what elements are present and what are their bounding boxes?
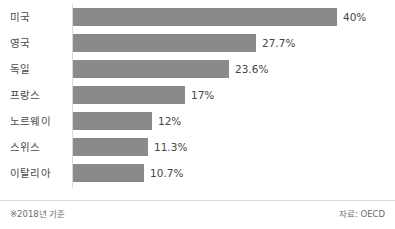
bar-track: 17% bbox=[73, 86, 395, 104]
bar-value-label: 10.7% bbox=[150, 164, 183, 182]
bar-fill bbox=[73, 138, 148, 156]
bar-fill bbox=[73, 164, 144, 182]
bar-value-label: 12% bbox=[158, 112, 181, 130]
footer: ※2018년 기준 자료: OECD bbox=[0, 203, 395, 229]
bar-fill bbox=[73, 34, 256, 52]
category-label: 독일 bbox=[10, 56, 68, 82]
footer-divider bbox=[0, 200, 395, 201]
bar-track: 40% bbox=[73, 8, 395, 26]
bar-value-label: 27.7% bbox=[262, 34, 295, 52]
bar-value-label: 40% bbox=[343, 8, 366, 26]
bar-track: 10.7% bbox=[73, 164, 395, 182]
category-label: 영국 bbox=[10, 30, 68, 56]
bar-fill bbox=[73, 86, 185, 104]
bar-fill bbox=[73, 8, 337, 26]
bar-value-label: 17% bbox=[191, 86, 214, 104]
bar-track: 27.7% bbox=[73, 34, 395, 52]
bar-row: 프랑스 17% bbox=[0, 82, 395, 108]
footer-source: 자료: OECD bbox=[339, 203, 385, 225]
category-label: 스위스 bbox=[10, 134, 68, 160]
bar-track: 23.6% bbox=[73, 60, 395, 78]
bar-row: 이탈리아 10.7% bbox=[0, 160, 395, 186]
bar-fill bbox=[73, 60, 229, 78]
bar-value-label: 23.6% bbox=[235, 60, 268, 78]
bar-row: 독일 23.6% bbox=[0, 56, 395, 82]
category-label: 노르웨이 bbox=[10, 108, 68, 134]
bar-fill bbox=[73, 112, 152, 130]
footer-note: ※2018년 기준 bbox=[10, 203, 65, 225]
category-label: 이탈리아 bbox=[10, 160, 68, 186]
bar-value-label: 11.3% bbox=[154, 138, 187, 156]
bar-chart: 미국 40% 영국 27.7% 독일 23.6% 프랑스 17% bbox=[0, 0, 395, 229]
bar-row: 미국 40% bbox=[0, 4, 395, 30]
plot-area: 미국 40% 영국 27.7% 독일 23.6% 프랑스 17% bbox=[0, 0, 395, 195]
bar-track: 12% bbox=[73, 112, 395, 130]
bar-track: 11.3% bbox=[73, 138, 395, 156]
category-label: 프랑스 bbox=[10, 82, 68, 108]
bar-row: 노르웨이 12% bbox=[0, 108, 395, 134]
category-label: 미국 bbox=[10, 4, 68, 30]
bar-row: 스위스 11.3% bbox=[0, 134, 395, 160]
bar-row: 영국 27.7% bbox=[0, 30, 395, 56]
